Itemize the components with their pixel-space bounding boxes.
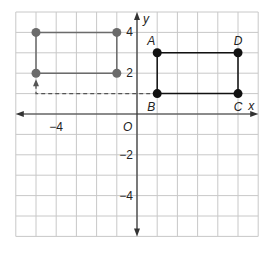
vertex-point-a	[153, 48, 162, 57]
x-tick-label: −4	[49, 120, 63, 134]
image-vertex-point	[112, 69, 121, 78]
vertex-label-b: B	[147, 100, 155, 114]
y-axis-up-arrow-icon	[134, 12, 140, 20]
y-tick-label: −2	[119, 148, 133, 162]
y-axis-down-arrow-icon	[134, 228, 140, 236]
y-axis-label: y	[142, 12, 150, 26]
vertex-point-c	[234, 89, 243, 98]
labels: yxO−442−2−4ADCB	[49, 12, 255, 203]
image-vertex-point	[32, 69, 41, 78]
translation-arrow-icon	[33, 79, 39, 86]
vertex-label-d: D	[234, 34, 243, 48]
vertex-point-d	[234, 48, 243, 57]
origin-label: O	[123, 120, 132, 134]
coordinate-plane: yxO−442−2−4ADCB	[0, 0, 271, 256]
image-vertex-point	[112, 28, 121, 37]
y-tick-label: 2	[126, 66, 133, 80]
vertex-label-c: C	[234, 100, 243, 114]
vertex-label-a: A	[146, 34, 155, 48]
image-vertex-point	[32, 28, 41, 37]
y-tick-label: 4	[126, 25, 133, 39]
x-axis-label: x	[247, 99, 255, 113]
y-tick-label: −4	[119, 189, 133, 203]
x-axis-left-arrow-icon	[16, 111, 24, 117]
vertex-point-b	[153, 89, 162, 98]
